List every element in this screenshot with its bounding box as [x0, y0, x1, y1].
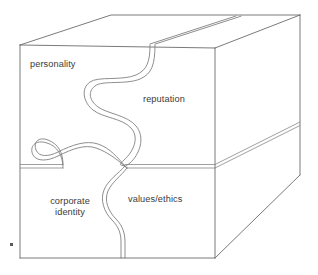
- label-corporate-identity: corporate identity: [36, 196, 104, 218]
- label-personality: personality: [30, 59, 76, 70]
- box-illustration: [0, 0, 318, 275]
- front-face-fill: [20, 45, 215, 258]
- label-values-ethics: values/ethics: [128, 194, 182, 205]
- diagram-canvas: personality reputation corporate identit…: [0, 0, 318, 275]
- right-side-face-fill: [215, 15, 300, 258]
- face-fills: [20, 15, 300, 258]
- label-reputation: reputation: [143, 94, 185, 105]
